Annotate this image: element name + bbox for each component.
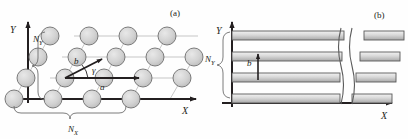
figure-canvas: b a γ N Y N X Y X (a) — [0, 0, 408, 139]
nanowire-bar-stub — [360, 52, 400, 61]
vector-a-label: a — [100, 82, 105, 92]
nanowire-bar-stub — [356, 73, 396, 82]
lattice-node — [173, 69, 191, 87]
lattice-node — [119, 27, 137, 45]
lattice-node — [80, 27, 98, 45]
lattice-node — [185, 48, 203, 66]
lattice-node — [41, 27, 59, 45]
lattice-node — [83, 90, 101, 108]
lattice-node — [146, 48, 164, 66]
nanowire-bar — [232, 73, 340, 82]
lattice-node — [107, 48, 125, 66]
nanowire-bar-stub — [352, 94, 392, 103]
nanowire-bar — [232, 31, 344, 40]
lattice-node — [122, 90, 140, 108]
lattice-node — [44, 90, 62, 108]
lattice-node — [5, 90, 23, 108]
nanowire-bar — [232, 94, 340, 103]
vector-b-label: b — [74, 56, 79, 66]
angle-gamma-label: γ — [92, 65, 96, 75]
lattice-node — [158, 27, 176, 45]
panel-b-caption: (b) — [374, 10, 385, 20]
lattice-node — [17, 69, 35, 87]
nanowire-bar-stub — [364, 31, 404, 40]
panel-a-x-axis-label: X — [181, 105, 189, 116]
panel-a-caption: (a) — [170, 8, 180, 18]
figure-root: b a γ N Y N X Y X (a) — [0, 0, 408, 139]
spacing-b-label: b — [247, 58, 252, 68]
panel-b-x-axis-label: X — [380, 110, 388, 121]
